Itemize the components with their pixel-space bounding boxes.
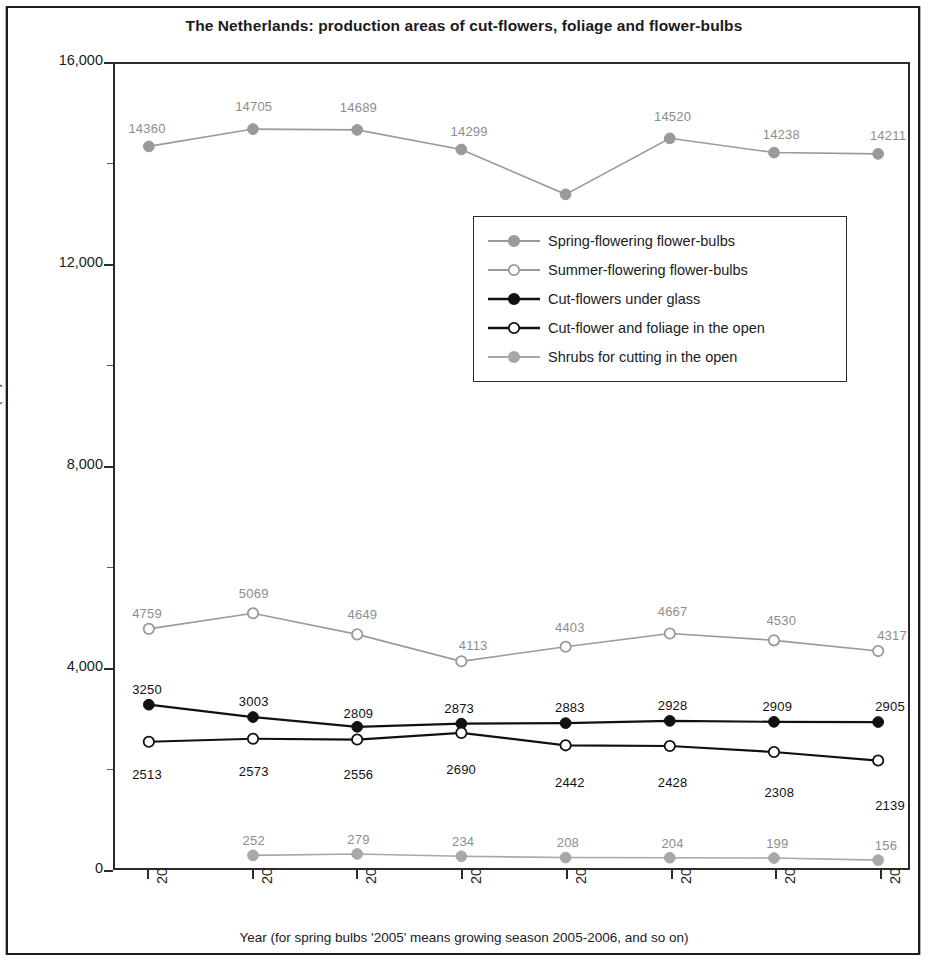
legend-marker-icon <box>486 291 542 307</box>
chart-page: The Netherlands: production areas of cut… <box>0 0 928 963</box>
x-tick-mark <box>252 870 254 879</box>
legend-label: Cut-flower and foliage in the open <box>548 320 765 336</box>
x-axis-caption: Year (for spring bulbs '2005' means grow… <box>0 930 928 945</box>
series-marker <box>456 851 467 862</box>
point-value-label: 2428 <box>658 775 688 790</box>
y-tick-label: 4,000 <box>17 658 103 674</box>
point-value-label: 234 <box>452 834 474 849</box>
legend-item[interactable]: Cut-flowers under glass <box>486 284 832 313</box>
legend-item[interactable]: Spring-flowering flower-bulbs <box>486 226 832 255</box>
point-value-label: 14299 <box>451 124 488 139</box>
series-marker <box>143 699 154 710</box>
series-marker <box>873 717 884 728</box>
legend-item[interactable]: Shrubs for cutting in the open <box>486 342 832 371</box>
series-marker <box>352 629 362 639</box>
series-marker <box>769 635 779 645</box>
legend-marker-icon <box>486 262 542 278</box>
x-tick-mark <box>775 870 777 879</box>
x-tick-mark <box>566 870 568 879</box>
series-marker <box>560 718 571 729</box>
series-lines <box>115 64 908 868</box>
legend-marker-icon <box>486 349 542 365</box>
y-tick-mark <box>104 264 113 266</box>
point-value-label: 279 <box>347 832 369 847</box>
x-tick-mark <box>356 870 358 879</box>
point-value-label: 2690 <box>446 762 476 777</box>
y-tick-label: 12,000 <box>17 254 103 270</box>
point-value-label: 208 <box>557 835 579 850</box>
point-value-label: 14211 <box>870 128 906 143</box>
series-marker <box>144 624 154 634</box>
point-value-label: 2873 <box>444 701 474 716</box>
point-value-label: 14360 <box>128 121 165 136</box>
point-value-label: 204 <box>661 836 683 851</box>
point-value-label: 2308 <box>764 785 794 800</box>
point-value-label: 156 <box>875 838 897 853</box>
point-value-label: 4113 <box>459 638 488 653</box>
point-value-label: 2809 <box>344 706 374 721</box>
series-marker <box>248 850 259 861</box>
y-axis-label: Area (ha) <box>0 383 2 437</box>
legend-label: Spring-flowering flower-bulbs <box>548 233 735 249</box>
x-tick-mark <box>461 870 463 879</box>
series-marker <box>769 147 780 158</box>
series-marker <box>352 849 363 860</box>
legend-label: Cut-flowers under glass <box>548 291 700 307</box>
point-value-label: 3250 <box>132 682 162 697</box>
series-marker <box>248 124 259 135</box>
series-marker <box>560 642 570 652</box>
point-value-label: 14238 <box>763 127 800 142</box>
series-marker <box>248 608 258 618</box>
legend-marker-icon <box>486 233 542 249</box>
chart-title: The Netherlands: production areas of cut… <box>0 17 928 35</box>
point-value-label: 4667 <box>658 604 688 619</box>
series-marker <box>665 628 675 638</box>
x-tick-mark <box>147 870 149 879</box>
y-tick-label: 0 <box>17 860 103 876</box>
x-tick-mark <box>671 870 673 879</box>
series-marker <box>664 852 675 863</box>
series-marker <box>352 721 363 732</box>
y-tick-mark <box>104 62 113 64</box>
point-value-label: 5069 <box>239 586 269 601</box>
series-marker <box>143 141 154 152</box>
point-value-label: 4403 <box>555 620 585 635</box>
point-value-label: 14520 <box>654 109 691 124</box>
point-value-label: 4530 <box>766 613 796 628</box>
y-tick-mark <box>104 870 113 872</box>
point-value-label: 199 <box>766 836 788 851</box>
series-marker <box>664 715 675 726</box>
series-marker <box>456 144 467 155</box>
series-marker <box>873 855 884 866</box>
point-value-label: 252 <box>243 833 265 848</box>
point-value-label: 2905 <box>875 699 905 714</box>
series-marker <box>665 741 675 751</box>
point-value-label: 4759 <box>132 606 162 621</box>
series-marker <box>560 189 571 200</box>
legend-item[interactable]: Summer-flowering flower-bulbs <box>486 255 832 284</box>
x-tick-mark <box>880 870 882 879</box>
series-marker <box>352 124 363 135</box>
series-marker <box>873 148 884 159</box>
y-tick-mark <box>104 466 113 468</box>
legend-label: Shrubs for cutting in the open <box>548 349 737 365</box>
point-value-label: 2442 <box>555 775 585 790</box>
series-marker <box>352 734 362 744</box>
legend-item[interactable]: Cut-flower and foliage in the open <box>486 313 832 342</box>
point-value-label: 14705 <box>235 99 272 114</box>
legend: Spring-flowering flower-bulbsSummer-flow… <box>473 216 847 382</box>
point-value-label: 4649 <box>348 607 378 622</box>
series-marker <box>456 656 466 666</box>
series-marker <box>873 646 883 656</box>
point-value-label: 4317 <box>877 628 907 643</box>
point-value-label: 2139 <box>875 798 905 813</box>
point-value-label: 2883 <box>555 700 585 715</box>
series-marker <box>144 737 154 747</box>
series-marker <box>560 852 571 863</box>
y-tick-label: 16,000 <box>17 52 103 68</box>
series-marker <box>560 740 570 750</box>
point-value-label: 14689 <box>340 100 377 115</box>
series-marker <box>873 755 883 765</box>
series-marker <box>769 747 779 757</box>
series-marker <box>769 716 780 727</box>
